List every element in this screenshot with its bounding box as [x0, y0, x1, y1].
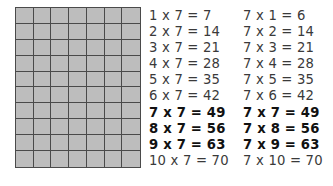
multiplication-grid [15, 7, 141, 168]
grid-cell [122, 151, 140, 167]
grid-cell [122, 56, 140, 72]
grid-cell [105, 24, 123, 40]
equation-row: 10 x 7 = 70 [149, 153, 229, 169]
grid-cell [69, 72, 87, 88]
equation-row: 8 x 7 = 56 [149, 121, 229, 137]
grid-cell [122, 119, 140, 135]
grid-cell [105, 87, 123, 103]
grid-cell [51, 8, 69, 24]
equation-row: 5 x 7 = 35 [149, 72, 229, 88]
grid-cell [69, 135, 87, 151]
grid-cell [87, 135, 105, 151]
equation-row: 7 x 1 = 6 [243, 8, 323, 24]
equation-row: 7 x 8 = 56 [243, 121, 323, 137]
equation-row: 7 x 2 = 14 [243, 24, 323, 40]
grid-cell [69, 119, 87, 135]
left-equations-column: 1 x 7 = 7 2 x 7 = 14 3 x 7 = 21 4 x 7 = … [149, 8, 229, 169]
grid-cell [87, 24, 105, 40]
grid-cell [87, 8, 105, 24]
grid-cell [34, 135, 52, 151]
grid-cell [69, 8, 87, 24]
grid-cell [105, 56, 123, 72]
grid-cell [16, 40, 34, 56]
grid-cell [16, 87, 34, 103]
grid-cell [69, 151, 87, 167]
equation-row: 7 x 5 = 35 [243, 72, 323, 88]
grid-cell [16, 135, 34, 151]
grid-cell [105, 40, 123, 56]
grid-cell [51, 40, 69, 56]
equation-row: 7 x 7 = 49 [149, 105, 229, 121]
equation-row: 9 x 7 = 63 [149, 137, 229, 153]
grid-cell [105, 103, 123, 119]
grid-cell [87, 87, 105, 103]
grid-cell [87, 151, 105, 167]
equation-row: 7 x 9 = 63 [243, 137, 323, 153]
grid-cell [87, 40, 105, 56]
grid-cell [51, 56, 69, 72]
equation-row: 6 x 7 = 42 [149, 88, 229, 104]
grid-cell [34, 24, 52, 40]
grid-cell [16, 24, 34, 40]
grid-cell [87, 103, 105, 119]
grid-cell [34, 72, 52, 88]
equation-row: 7 x 7 = 49 [243, 105, 323, 121]
grid-cell [34, 119, 52, 135]
grid-cell [105, 8, 123, 24]
grid-cell [51, 87, 69, 103]
grid-cell [105, 119, 123, 135]
grid-cell [34, 87, 52, 103]
equation-row: 1 x 7 = 7 [149, 8, 229, 24]
grid-cell [16, 151, 34, 167]
grid-cell [51, 135, 69, 151]
grid-cell [122, 87, 140, 103]
grid-cell [105, 135, 123, 151]
equation-row: 7 x 3 = 21 [243, 40, 323, 56]
grid-cell [51, 72, 69, 88]
right-equations-column: 7 x 1 = 6 7 x 2 = 14 7 x 3 = 21 7 x 4 = … [243, 8, 323, 169]
grid-cell [51, 24, 69, 40]
grid-cell [16, 103, 34, 119]
grid-cell [69, 24, 87, 40]
grid-cell [122, 72, 140, 88]
grid-cell [105, 72, 123, 88]
grid-cell [122, 135, 140, 151]
grid-cell [105, 151, 123, 167]
equation-row: 3 x 7 = 21 [149, 40, 229, 56]
grid-cell [34, 8, 52, 24]
grid-cell [16, 56, 34, 72]
grid-cell [34, 103, 52, 119]
grid-cell [51, 119, 69, 135]
grid-cell [122, 8, 140, 24]
grid-cell [69, 40, 87, 56]
equation-row: 2 x 7 = 14 [149, 24, 229, 40]
grid-cell [87, 119, 105, 135]
grid-cell [16, 8, 34, 24]
equation-row: 4 x 7 = 28 [149, 56, 229, 72]
grid-cell [69, 87, 87, 103]
grid-cell [122, 103, 140, 119]
equation-row: 7 x 10 = 70 [243, 153, 323, 169]
grid-cell [16, 72, 34, 88]
grid-cell [122, 40, 140, 56]
grid-cell [16, 119, 34, 135]
equation-row: 7 x 4 = 28 [243, 56, 323, 72]
grid-cell [34, 56, 52, 72]
grid-cell [122, 24, 140, 40]
grid-cell [87, 72, 105, 88]
grid-cell [69, 103, 87, 119]
equation-row: 7 x 6 = 42 [243, 88, 323, 104]
grid-cell [51, 103, 69, 119]
grid-cell [34, 40, 52, 56]
grid-cell [69, 56, 87, 72]
grid-cell [34, 151, 52, 167]
grid-cell [87, 56, 105, 72]
grid-cell [51, 151, 69, 167]
